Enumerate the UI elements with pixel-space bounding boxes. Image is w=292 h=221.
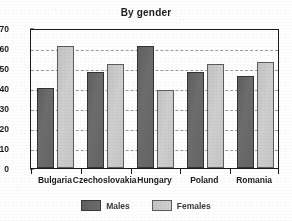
x-axis-tick-mark [81,169,82,174]
x-axis-tick-mark [31,169,32,174]
bar-females-romania [257,62,274,168]
bar-females-hungary [157,90,174,168]
bar-males-czechoslovakia [87,72,104,168]
x-axis-label-poland: Poland [190,175,218,185]
chart-title: By gender [0,7,292,18]
y-axis-tick-label: 10 [0,144,9,154]
y-axis-tick-label: 30 [0,104,9,114]
x-axis-label-hungary: Hungary [137,175,171,185]
y-axis-tick-label: 20 [0,124,9,134]
bar-males-poland [187,72,204,168]
bar-males-romania [237,76,254,168]
y-axis-tick-label: 70 [0,24,9,34]
scan-speck [55,9,56,10]
legend-label: Females [177,201,211,211]
dark-gray-swatch [81,200,101,211]
bar-females-czechoslovakia [107,64,124,168]
plot-area [30,29,279,169]
y-axis-tick-label: 60 [0,44,9,54]
scan-speck [268,55,269,56]
chart-figure: By gender 010203040506070 BulgariaCzecho… [0,0,292,221]
bar-females-bulgaria [57,46,74,168]
x-axis-tick-mark [131,169,132,174]
x-axis-label-romania: Romania [236,175,272,185]
legend-item-females: Females [152,200,211,211]
x-axis-tick-mark [180,169,181,174]
x-axis-label-bulgaria: Bulgaria [38,175,72,185]
chart-legend: MalesFemales [0,200,292,211]
x-axis-tick-mark [278,169,279,174]
scan-speck [285,150,286,151]
y-axis-tick-label: 0 [0,164,9,174]
scan-speck [183,20,184,21]
bar-males-bulgaria [37,88,54,168]
scan-speck [250,205,251,206]
bar-series-group [31,30,278,168]
y-axis-tick-label: 50 [0,64,9,74]
legend-item-males: Males [81,200,130,211]
scan-speck [8,120,9,121]
bar-males-hungary [137,46,154,168]
bar-females-poland [207,64,224,168]
legend-label: Males [106,201,130,211]
x-axis-tick-mark [230,169,231,174]
light-gray-swatch [152,200,172,211]
scan-speck [18,190,19,191]
x-axis-label-czechoslovakia: Czechoslovakia [73,175,137,185]
y-axis-tick-label: 40 [0,84,9,94]
scan-speck [97,14,98,15]
